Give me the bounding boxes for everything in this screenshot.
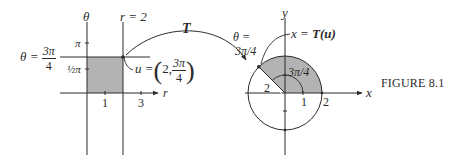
fraction-denominator: 4: [46, 59, 52, 72]
image-label-var: x =: [291, 26, 309, 41]
fraction-numerator: 3π: [172, 57, 186, 71]
tick-label-pi: π: [75, 38, 81, 49]
angle-label: 3π/4: [288, 66, 309, 78]
point-x-2: [321, 92, 324, 95]
point-u-lhs: u =: [135, 61, 154, 76]
y-axis-label: y: [282, 6, 288, 19]
point-u-label: u =(2,3π4): [135, 57, 195, 84]
line-r-label: r = 2: [120, 10, 147, 23]
line-theta-label-lhs: θ =: [20, 49, 38, 64]
line-theta-label: θ = 3π 4: [20, 45, 56, 72]
paren-open: (: [154, 56, 163, 85]
line-theta-label-fraction: 3π 4: [42, 45, 56, 72]
shaded-rectangle: [87, 57, 123, 93]
point-y-neg2: [284, 129, 287, 132]
image-label: x = T(u): [291, 27, 336, 40]
theta-axis-label: θ: [83, 10, 89, 23]
tick-label-x-1: 1: [301, 96, 307, 108]
x-axis-label: x: [366, 86, 372, 99]
fraction-denominator: 4: [176, 71, 182, 84]
figure-caption: FIGURE 8.1: [381, 77, 444, 89]
image-label-fn: T(u): [312, 26, 336, 41]
tick-label-r-1: 1: [102, 97, 108, 109]
point-u-r: 2,: [162, 61, 172, 76]
paren-close: ): [186, 56, 195, 85]
point-T-u: [257, 65, 261, 69]
point-u-leader: [124, 58, 133, 70]
fraction-numerator: 3π: [42, 45, 56, 59]
tick-label-r-3: 3: [138, 97, 144, 109]
mapping-label-T: T: [182, 22, 191, 36]
tick-label-half-pi: ½π: [67, 64, 81, 75]
r-axis-label: r: [163, 87, 168, 99]
tick-label-x-2: 2: [323, 96, 329, 108]
ray-label-bottom: 3π/4: [235, 45, 256, 57]
point-u-fraction: 3π4: [172, 57, 186, 84]
ray-label-top: θ =: [233, 31, 250, 43]
radius-label: 2: [264, 82, 270, 94]
